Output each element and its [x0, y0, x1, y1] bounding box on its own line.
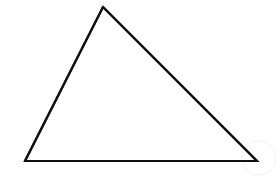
triangle-diagram-svg: [0, 0, 280, 185]
diagram-background: [0, 0, 280, 185]
figure-canvas: [0, 0, 280, 185]
